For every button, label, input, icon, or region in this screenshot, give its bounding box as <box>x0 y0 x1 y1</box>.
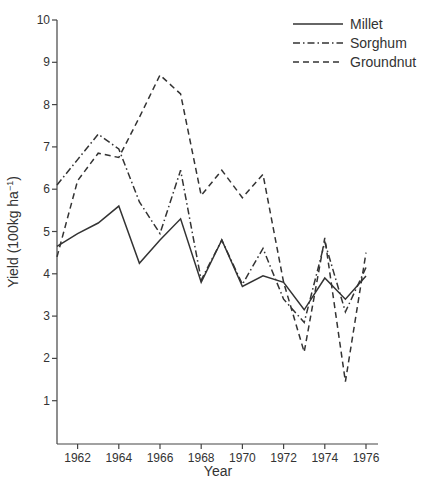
x-axis-title: Year <box>204 463 233 479</box>
y-tick-label: 1 <box>43 394 50 408</box>
x-tick-label: 1966 <box>147 451 174 465</box>
series-line-groundnut <box>57 75 366 382</box>
x-tick-label: 1976 <box>353 451 380 465</box>
x-tick-label: 1964 <box>105 451 132 465</box>
y-tick-label: 7 <box>43 140 50 154</box>
axes <box>57 20 378 444</box>
y-axis-title: Yield (100kg ha−1) <box>5 176 21 288</box>
y-tick-label: 8 <box>43 98 50 112</box>
series-line-sorghum <box>57 134 366 322</box>
y-ticks: 12345678910 <box>37 13 57 408</box>
legend: MilletSorghumGroundnut <box>293 16 416 70</box>
x-tick-label: 1974 <box>311 451 338 465</box>
y-tick-label: 4 <box>43 267 50 281</box>
y-tick-label: 6 <box>43 182 50 196</box>
y-tick-label: 2 <box>43 351 50 365</box>
yield-line-chart: 12345678910 1962196419661968197019721974… <box>0 0 424 496</box>
y-tick-label: 3 <box>43 309 50 323</box>
x-tick-label: 1962 <box>64 451 91 465</box>
series-line-millet <box>57 206 366 310</box>
series-lines <box>57 75 366 382</box>
x-tick-label: 1972 <box>270 451 297 465</box>
y-tick-label: 10 <box>37 13 51 27</box>
legend-label-millet: Millet <box>350 16 383 32</box>
legend-label-groundnut: Groundnut <box>350 54 416 70</box>
legend-label-sorghum: Sorghum <box>350 35 407 51</box>
x-tick-label: 1970 <box>229 451 256 465</box>
y-tick-label: 9 <box>43 55 50 69</box>
y-tick-label: 5 <box>43 225 50 239</box>
x-ticks: 19621964196619681970197219741976 <box>64 444 379 465</box>
